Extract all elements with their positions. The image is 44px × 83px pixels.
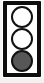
traffic-light-lamp-bottom-green-on[interactable]	[11, 50, 33, 72]
bottom-base-shade	[0, 78, 44, 83]
traffic-light-icon[interactable]	[0, 0, 44, 83]
left-edge-shade	[0, 0, 2, 83]
traffic-light-housing	[3, 1, 41, 77]
traffic-light-lamp-stack	[7, 5, 37, 73]
traffic-light-lamp-top-red-off[interactable]	[11, 6, 33, 28]
traffic-light-lamp-middle-yellow-off[interactable]	[11, 28, 33, 50]
right-edge-shade	[42, 0, 44, 83]
